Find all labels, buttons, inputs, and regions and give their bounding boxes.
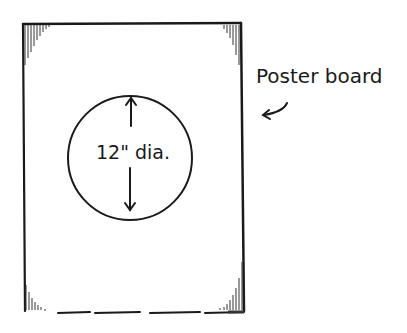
pointer-arrow-icon bbox=[263, 103, 287, 119]
diameter-label: 12" dia. bbox=[96, 141, 170, 163]
corner-shading bbox=[25, 25, 244, 312]
poster-board bbox=[23, 23, 244, 313]
poster-board-label: Poster board bbox=[256, 64, 382, 88]
poster-board-illustration bbox=[0, 0, 407, 333]
